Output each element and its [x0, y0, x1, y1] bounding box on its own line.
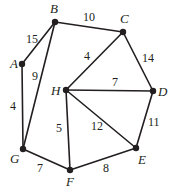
- edge-a-g: [22, 64, 23, 149]
- node-g: [20, 146, 26, 152]
- edge-weight-b-g: 9: [32, 69, 38, 83]
- edge-weight-h-f: 5: [56, 121, 62, 135]
- edge-g-f: [23, 149, 70, 170]
- node-label-c: C: [120, 11, 129, 26]
- edge-weight-f-e: 8: [103, 161, 109, 175]
- node-label-b: B: [50, 1, 58, 16]
- edge-weight-a-g: 4: [10, 99, 16, 113]
- edge-weight-c-h: 4: [84, 49, 90, 63]
- edge-weight-c-d: 14: [142, 51, 154, 65]
- node-label-e: E: [137, 152, 146, 167]
- weighted-graph-diagram: 15109441475121178 ABCDEFGH: [0, 0, 170, 192]
- node-d: [150, 88, 156, 94]
- node-labels-layer: ABCDEFGH: [9, 1, 168, 189]
- node-label-d: D: [157, 84, 168, 99]
- node-a: [19, 61, 25, 67]
- node-label-g: G: [10, 151, 20, 166]
- edge-weight-h-d: 7: [112, 75, 118, 89]
- edge-h-d: [66, 90, 153, 91]
- edge-weight-g-f: 7: [37, 161, 43, 175]
- edge-weight-a-b: 15: [26, 32, 38, 46]
- node-b: [52, 19, 58, 25]
- node-c: [120, 29, 126, 35]
- edge-weight-h-e: 12: [91, 119, 103, 133]
- node-h: [63, 87, 69, 93]
- edge-weight-d-e: 11: [148, 115, 160, 129]
- node-label-h: H: [50, 83, 61, 98]
- edge-h-f: [66, 90, 70, 170]
- edge-weight-b-c: 10: [83, 10, 95, 24]
- node-label-a: A: [9, 56, 18, 71]
- node-e: [133, 145, 139, 151]
- node-f: [67, 167, 73, 173]
- node-label-f: F: [65, 174, 75, 189]
